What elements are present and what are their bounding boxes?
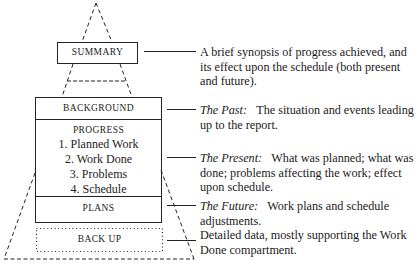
progress-description: The Present: What was planned; what was … [200,151,415,195]
progress-item: 3. Problems [35,167,162,182]
base-left-dashed-line [4,173,35,259]
summary-description-text: A brief synopsis of progress achieved, a… [200,45,407,88]
progress-heading: PROGRESS [35,124,162,137]
progress-item: 1. Planned Work [35,137,162,152]
past-lead: The Past: [200,103,247,117]
background-label: BACKGROUND [35,103,162,113]
background-description: The Past: The situation and events leadi… [200,103,415,132]
apex-right-dashed-line [96,3,112,42]
progress-item: 2. Work Done [35,152,162,167]
backup-label: BACK UP [36,234,163,244]
future-lead: The Future: [200,199,258,213]
progress-section: PROGRESS 1. Planned Work 2. Work Done 3.… [35,124,162,197]
present-lead: The Present: [200,151,262,165]
apex-left-dashed-line [82,3,96,42]
summary-label: SUMMARY [57,47,138,57]
base-right-dashed-line [161,170,194,259]
progress-item: 4. Schedule [35,182,162,197]
summary-description: A brief synopsis of progress achieved, a… [200,45,415,89]
plans-label: PLANS [35,203,162,213]
plans-description: The Future: Work plans and schedule adju… [200,199,415,228]
backup-description: Detailed data, mostly supporting the Wor… [200,228,415,257]
backup-description-text: Detailed data, mostly supporting the Wor… [200,228,407,257]
